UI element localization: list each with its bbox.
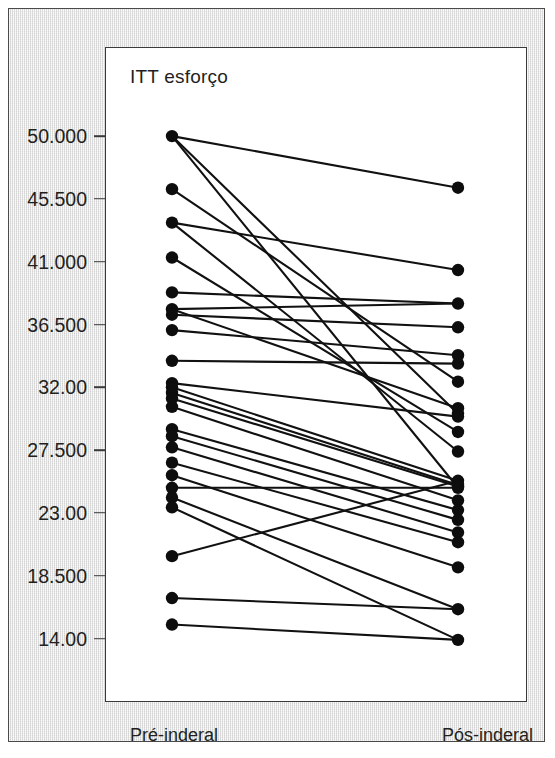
y-tick-mark bbox=[94, 575, 105, 577]
y-tick-mark bbox=[94, 387, 105, 389]
y-tick-mark bbox=[94, 198, 105, 200]
figure-container: ITT esforço 50.00045.50041.00036.50032.0… bbox=[0, 0, 555, 758]
y-axis: 50.00045.50041.00036.50032.0027.50023.00… bbox=[0, 0, 105, 758]
y-tick-label: 23.00 bbox=[38, 501, 87, 524]
x-axis-label-post: Pós-inderal bbox=[442, 725, 533, 746]
y-tick-mark bbox=[94, 324, 105, 326]
plot-title: ITT esforço bbox=[130, 66, 228, 88]
y-tick-mark bbox=[94, 135, 105, 137]
y-tick-label: 18.500 bbox=[27, 564, 87, 587]
y-tick-label: 14.00 bbox=[38, 627, 87, 650]
y-tick-mark bbox=[94, 261, 105, 263]
plot-frame bbox=[105, 47, 527, 702]
y-tick-label: 50.000 bbox=[27, 125, 87, 148]
y-tick-mark bbox=[94, 512, 105, 514]
y-tick-mark bbox=[94, 638, 105, 640]
y-tick-mark bbox=[94, 449, 105, 451]
x-axis-label-pre: Pré-inderal bbox=[130, 725, 218, 746]
y-tick-label: 45.500 bbox=[27, 187, 87, 210]
y-tick-label: 32.00 bbox=[38, 376, 87, 399]
y-tick-label: 41.000 bbox=[27, 250, 87, 273]
y-tick-label: 27.500 bbox=[27, 439, 87, 462]
y-tick-label: 36.500 bbox=[27, 313, 87, 336]
